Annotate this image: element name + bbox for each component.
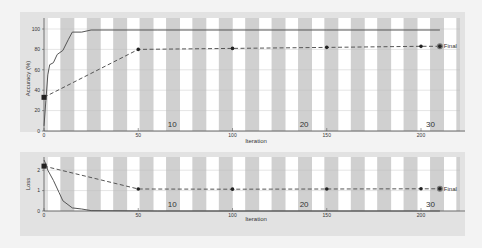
y-tick-label: 0 <box>37 208 40 214</box>
stripe-light <box>338 18 351 131</box>
validation-marker <box>419 187 423 191</box>
stripe-dark <box>245 157 259 211</box>
stripe-dark <box>430 18 444 131</box>
stripe-dark <box>140 157 154 211</box>
stripe-light <box>312 157 325 211</box>
y-tick-label: 1 <box>37 187 40 193</box>
x-tick-label: 100 <box>228 132 237 138</box>
stripe-dark <box>87 18 101 131</box>
stripe-light <box>338 157 351 211</box>
stripe-dark <box>298 18 312 131</box>
validation-marker <box>325 187 329 191</box>
stripe-light <box>101 157 114 211</box>
iteration-annotation: 20 <box>300 120 309 129</box>
stripe-light <box>259 18 272 131</box>
x-tick-label: 200 <box>417 212 426 218</box>
stripe-dark <box>457 18 461 131</box>
stripe-light <box>206 18 219 131</box>
stripe-dark <box>140 18 154 131</box>
stripe-dark <box>377 18 391 131</box>
stripe-light <box>74 18 87 131</box>
stripe-light <box>48 157 61 211</box>
stripe-light <box>127 157 140 211</box>
x-tick-label: 150 <box>323 132 332 138</box>
validation-marker <box>325 46 329 50</box>
validation-marker-final <box>438 187 442 191</box>
x-tick-label: 50 <box>135 132 141 138</box>
stripe-dark <box>457 157 461 211</box>
x-axis-label: Iteration <box>245 216 267 222</box>
stripe-dark <box>113 18 127 131</box>
stripe-light <box>286 18 299 131</box>
stripe-dark <box>113 157 127 211</box>
y-axis-label: Loss <box>25 178 31 191</box>
stripe-light <box>391 157 404 211</box>
stripe-light <box>180 157 193 211</box>
stripe-dark <box>272 18 286 131</box>
x-tick-label: 100 <box>228 212 237 218</box>
validation-marker-start <box>42 164 47 169</box>
validation-marker <box>231 47 235 51</box>
x-tick-label: 200 <box>417 132 426 138</box>
stripe-dark <box>219 18 233 131</box>
stripe-dark <box>404 157 418 211</box>
validation-marker-final <box>438 45 442 49</box>
stripe-light <box>233 18 246 131</box>
stripe-light <box>365 18 378 131</box>
stripe-dark <box>219 157 233 211</box>
stripe-light <box>127 18 140 131</box>
stripe-light <box>312 18 325 131</box>
iteration-annotation: 20 <box>300 200 309 209</box>
stripe-light <box>444 18 457 131</box>
y-tick-label: 80 <box>34 46 40 52</box>
stripe-dark <box>377 157 391 211</box>
stripe-light <box>206 157 219 211</box>
stripe-light <box>259 157 272 211</box>
stripe-light <box>391 18 404 131</box>
stripe-light <box>74 157 87 211</box>
stripe-light <box>286 157 299 211</box>
y-tick-label: 20 <box>34 107 40 113</box>
loss-panel: 012050100150200IterationLoss102030Final <box>20 152 465 236</box>
y-tick-label: 60 <box>34 67 40 73</box>
iteration-annotation: 10 <box>168 120 177 129</box>
accuracy-panel: 020406080100050100150200IterationAccurac… <box>20 12 465 144</box>
stripe-dark <box>325 18 339 131</box>
x-tick-label: 150 <box>323 212 332 218</box>
stripe-light <box>233 157 246 211</box>
iteration-annotation: 30 <box>426 120 435 129</box>
final-label: Final <box>444 186 457 192</box>
validation-marker <box>136 187 140 191</box>
stripe-dark <box>193 18 207 131</box>
x-tick-label: 0 <box>43 212 46 218</box>
stripe-light <box>154 18 167 131</box>
x-tick-label: 50 <box>135 212 141 218</box>
y-tick-label: 100 <box>32 26 41 32</box>
stripe-dark <box>351 18 365 131</box>
stripe-dark <box>61 18 75 131</box>
stripe-dark <box>404 18 418 131</box>
validation-marker <box>136 48 140 52</box>
stripe-dark <box>325 157 339 211</box>
iteration-annotation: 10 <box>168 200 177 209</box>
stripe-dark <box>166 18 180 131</box>
y-axis-label: Accuracy (%) <box>25 61 31 97</box>
stripe-dark <box>193 157 207 211</box>
stripe-light <box>365 157 378 211</box>
stripe-dark <box>87 157 101 211</box>
x-axis-label: Iteration <box>245 138 267 144</box>
stripe-dark <box>61 157 75 211</box>
validation-marker-start <box>42 95 47 100</box>
stripe-light <box>48 18 61 131</box>
stripe-dark <box>272 157 286 211</box>
x-tick-label: 0 <box>43 132 46 138</box>
validation-marker <box>231 187 235 191</box>
final-label: Final <box>444 43 457 49</box>
validation-marker <box>419 45 423 49</box>
stripe-light <box>180 18 193 131</box>
iteration-annotation: 30 <box>426 200 435 209</box>
stripe-light <box>444 157 457 211</box>
stripe-light <box>418 18 431 131</box>
stripe-dark <box>245 18 259 131</box>
stripe-light <box>101 18 114 131</box>
